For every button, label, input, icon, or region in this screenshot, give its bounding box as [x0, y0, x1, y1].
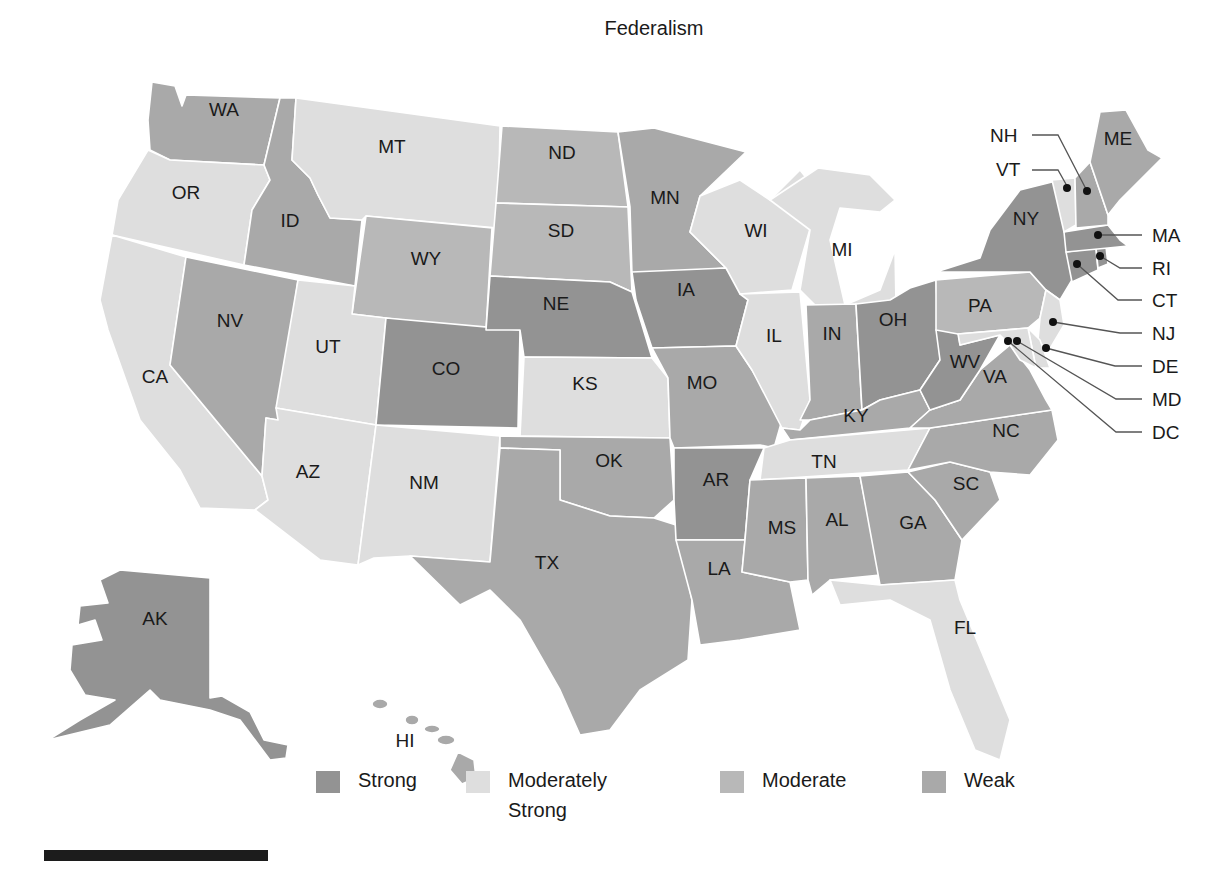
label-in: IN — [823, 323, 842, 344]
label-mt: MT — [378, 136, 406, 157]
legend-item-moderate: Moderate — [720, 770, 847, 795]
label-de: DE — [1152, 356, 1178, 377]
label-az: AZ — [296, 461, 321, 482]
label-nv: NV — [217, 310, 244, 331]
label-or: OR — [172, 182, 201, 203]
label-ar: AR — [703, 469, 729, 490]
legend-item-moderately-strong: Moderately Strong — [466, 770, 628, 825]
label-ny: NY — [1013, 208, 1040, 229]
label-co: CO — [432, 358, 461, 379]
state-az[interactable] — [255, 408, 376, 565]
state-ks[interactable] — [520, 357, 670, 438]
label-al: AL — [825, 509, 848, 530]
label-nm: NM — [409, 472, 439, 493]
legend-swatch-moderate — [720, 771, 744, 793]
state-fl[interactable] — [830, 580, 1010, 760]
label-ut: UT — [315, 336, 341, 357]
label-wa: WA — [209, 99, 239, 120]
label-ct: CT — [1152, 290, 1178, 311]
scale-bar — [44, 850, 268, 861]
label-sc: SC — [953, 473, 979, 494]
legend-label-weak: Weak — [964, 765, 1015, 795]
label-ok: OK — [595, 450, 623, 471]
legend-swatch-moderately-strong — [466, 771, 490, 793]
us-map: WA OR CA ID NV MT WY UT AZ CO NM ND SD N… — [0, 0, 1228, 872]
state-wa[interactable] — [148, 82, 280, 165]
label-va: VA — [983, 366, 1007, 387]
legend-item-weak: Weak — [922, 770, 1015, 795]
label-wy: WY — [411, 248, 442, 269]
label-nd: ND — [548, 142, 575, 163]
label-sd: SD — [548, 220, 574, 241]
label-id: ID — [281, 210, 300, 231]
label-wi: WI — [744, 220, 767, 241]
label-hi: HI — [396, 730, 415, 751]
label-ri: RI — [1152, 258, 1171, 279]
label-ky: KY — [843, 405, 869, 426]
label-ma: MA — [1152, 225, 1181, 246]
label-tn: TN — [811, 451, 836, 472]
label-ga: GA — [899, 512, 927, 533]
label-la: LA — [707, 558, 731, 579]
label-wv: WV — [950, 351, 981, 372]
legend-label-moderate: Moderate — [762, 765, 847, 795]
state-wy[interactable] — [352, 216, 492, 330]
state-ma[interactable] — [1064, 225, 1128, 252]
label-oh: OH — [879, 309, 908, 330]
state-ak[interactable] — [48, 570, 288, 760]
label-ak: AK — [142, 608, 168, 629]
label-nc: NC — [992, 420, 1019, 441]
state-nd[interactable] — [496, 126, 628, 207]
legend-item-strong: Strong — [316, 770, 417, 795]
label-mn: MN — [650, 187, 680, 208]
label-vt: VT — [996, 159, 1021, 180]
label-mo: MO — [687, 372, 718, 393]
state-in[interactable] — [800, 304, 862, 420]
label-ks: KS — [572, 373, 597, 394]
label-ia: IA — [677, 279, 695, 300]
label-ca: CA — [142, 366, 169, 387]
label-ms: MS — [768, 517, 797, 538]
label-fl: FL — [954, 617, 976, 638]
legend-label-moderately-strong: Moderately Strong — [508, 765, 628, 825]
label-dc: DC — [1152, 422, 1179, 443]
label-tx: TX — [535, 552, 560, 573]
label-nh: NH — [990, 125, 1017, 146]
label-ne: NE — [543, 293, 569, 314]
legend-label-strong: Strong — [358, 765, 417, 795]
state-ct[interactable] — [1066, 248, 1098, 282]
label-pa: PA — [968, 295, 992, 316]
label-md: MD — [1152, 389, 1182, 410]
label-me: ME — [1104, 128, 1133, 149]
legend-swatch-weak — [922, 771, 946, 793]
label-nj: NJ — [1152, 323, 1175, 344]
legend-swatch-strong — [316, 771, 340, 793]
state-nm[interactable] — [358, 425, 500, 565]
legend: Strong Moderately Strong Moderate Weak — [316, 770, 1076, 840]
label-il: IL — [766, 325, 782, 346]
label-mi: MI — [831, 239, 852, 260]
